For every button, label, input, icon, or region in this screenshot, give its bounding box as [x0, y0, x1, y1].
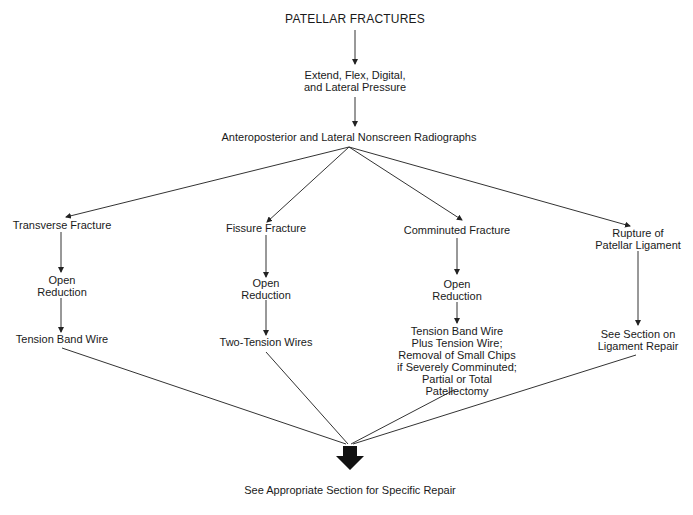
reduction-label: Reduction: [37, 286, 87, 298]
arrow-to-fissure: [267, 147, 349, 222]
treatment-line: Patellectomy: [397, 385, 517, 397]
down-arrow-icon: [336, 446, 364, 470]
treatment-line: Removal of Small Chips: [397, 349, 517, 361]
treatment-line: Partial or Total: [397, 373, 517, 385]
arrow-to-transverse: [66, 147, 349, 217]
fissure-fracture-node: Fissure Fracture: [226, 222, 306, 234]
conclusion-node: See Appropriate Section for Specific Rep…: [244, 484, 456, 496]
transverse-fracture-node: Transverse Fracture: [13, 219, 112, 231]
physical-exam-line2: and Lateral Pressure: [304, 81, 406, 93]
rupture-line1: Rupture of: [595, 227, 681, 239]
rupture-patellar-ligament-node: Rupture of Patellar Ligament: [595, 227, 681, 251]
comminuted-open-reduction-node: Open Reduction: [432, 278, 482, 302]
treatment-line: Tension Band Wire: [397, 325, 517, 337]
tension-band-wire-node: Tension Band Wire: [16, 333, 108, 345]
reduction-label: Reduction: [432, 290, 482, 302]
treatment-line: Plus Tension Wire;: [397, 337, 517, 349]
ligament-line1: See Section on: [598, 328, 679, 340]
ligament-repair-node: See Section on Ligament Repair: [598, 328, 679, 352]
line-col2-to-conclusion: [266, 352, 348, 444]
arrow-to-rupture: [349, 147, 630, 226]
reduction-label: Reduction: [241, 289, 291, 301]
comminuted-treatment-node: Tension Band Wire Plus Tension Wire; Rem…: [397, 325, 517, 397]
physical-exam-line1: Extend, Flex, Digital,: [304, 69, 406, 81]
radiographs-step: Anteroposterior and Lateral Nonscreen Ra…: [222, 131, 477, 143]
open-label: Open: [241, 277, 291, 289]
fissure-open-reduction-node: Open Reduction: [241, 277, 291, 301]
transverse-open-reduction-node: Open Reduction: [37, 274, 87, 298]
physical-exam-step: Extend, Flex, Digital, and Lateral Press…: [304, 69, 406, 93]
open-label: Open: [432, 278, 482, 290]
diagram-title: PATELLAR FRACTURES: [285, 13, 425, 25]
arrow-to-comminuted: [349, 147, 462, 220]
ligament-line2: Ligament Repair: [598, 340, 679, 352]
treatment-line: if Severely Comminuted;: [397, 361, 517, 373]
comminuted-fracture-node: Comminuted Fracture: [404, 224, 510, 236]
line-col1-to-conclusion: [62, 348, 346, 444]
open-label: Open: [37, 274, 87, 286]
rupture-line2: Patellar Ligament: [595, 239, 681, 251]
two-tension-wires-node: Two-Tension Wires: [220, 336, 313, 348]
